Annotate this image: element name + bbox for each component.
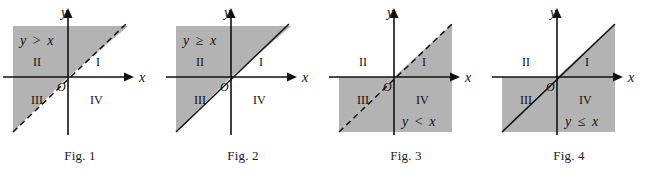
- quadrant-label-ii: II: [33, 55, 41, 69]
- quadrant-label-i: I: [422, 55, 426, 69]
- figure-caption: Fig. 2: [163, 148, 323, 164]
- y-axis-label: y: [59, 5, 68, 20]
- figure-caption: Fig. 3: [326, 148, 486, 164]
- origin-label: O: [546, 80, 555, 94]
- x-axis-arrow: [613, 73, 623, 82]
- y-axis-label: y: [548, 5, 557, 20]
- origin-label: O: [220, 80, 229, 94]
- x-axis-label: x: [627, 70, 635, 85]
- x-axis-arrow: [124, 73, 134, 82]
- x-axis-label: x: [138, 70, 146, 85]
- y-axis-label: y: [222, 5, 231, 20]
- coordinate-plane-fig-3: x y O I II III IV y < x: [326, 0, 486, 147]
- coordinate-plane-fig-2: x y O I II III IV y ≥ x: [163, 0, 323, 147]
- y-axis-label: y: [385, 5, 394, 20]
- quadrant-label-ii: II: [522, 55, 530, 69]
- x-axis-arrow: [287, 73, 297, 82]
- origin-label: O: [57, 80, 66, 94]
- quadrant-label-iii: III: [357, 93, 369, 107]
- quadrant-label-i: I: [585, 55, 589, 69]
- shaded-region-q1: [68, 26, 128, 77]
- quadrant-label-iv: IV: [579, 93, 592, 107]
- quadrant-label-i: I: [259, 55, 263, 69]
- figure-caption: Fig. 1: [0, 148, 160, 164]
- inequality-label: y ≤ x: [563, 114, 599, 129]
- quadrant-label-i: I: [96, 55, 100, 69]
- coordinate-plane-fig-1: x y O I II III IV y > x: [0, 0, 160, 147]
- x-axis-label: x: [464, 70, 472, 85]
- figure-fig-3: x y O I II III IV y < x Fig. 3: [326, 0, 486, 175]
- inequality-label: y < x: [400, 114, 436, 129]
- figure-caption: Fig. 4: [489, 148, 649, 164]
- quadrant-label-iii: III: [31, 93, 43, 107]
- x-axis-arrow: [450, 73, 460, 82]
- inequality-label: y ≥ x: [181, 33, 217, 48]
- figure-fig-1: x y O I II III IV y > x Fig. 1: [0, 0, 160, 175]
- figure-fig-4: x y O I II III IV y ≤ x Fig. 4: [489, 0, 649, 175]
- quadrant-label-iv: IV: [253, 93, 266, 107]
- quadrant-label-iv: IV: [416, 93, 429, 107]
- quadrant-label-iv: IV: [90, 93, 103, 107]
- x-axis-label: x: [301, 70, 309, 85]
- quadrant-label-iii: III: [520, 93, 532, 107]
- quadrant-label-ii: II: [359, 55, 367, 69]
- figure-sheet: x y O I II III IV y > x Fig. 1 x y: [0, 0, 650, 175]
- origin-label: O: [383, 80, 392, 94]
- inequality-label: y > x: [18, 33, 54, 48]
- coordinate-plane-fig-4: x y O I II III IV y ≤ x: [489, 0, 649, 147]
- quadrant-label-iii: III: [194, 93, 206, 107]
- figure-fig-2: x y O I II III IV y ≥ x Fig. 2: [163, 0, 323, 175]
- quadrant-label-ii: II: [196, 55, 204, 69]
